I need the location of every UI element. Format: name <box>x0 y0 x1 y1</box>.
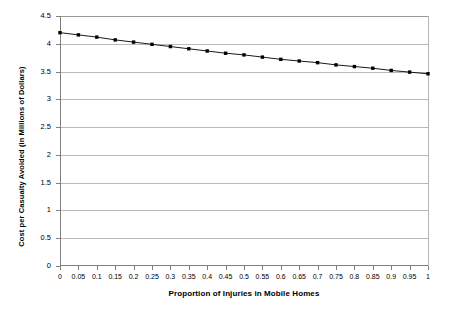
plot-right-frame <box>428 16 429 266</box>
y-tick-mark <box>56 16 60 17</box>
y-tick-label: 4 <box>47 40 51 48</box>
x-tick-label: 0.65 <box>292 272 306 281</box>
x-tick-mark <box>262 266 263 270</box>
x-tick-mark <box>115 266 116 270</box>
x-tick-label: 0.6 <box>276 272 286 281</box>
x-tick-label: 0.85 <box>366 272 380 281</box>
gridline-horizontal <box>61 210 428 211</box>
y-tick-label: 2 <box>47 151 51 159</box>
line-chart: Cost per Casualty Avoided (in Millions o… <box>0 0 453 313</box>
y-axis-tick-labels: 00.511.522.533.544.5 <box>0 0 56 313</box>
gridline-horizontal <box>61 155 428 156</box>
x-axis-title: Proportion of Injuries in Mobile Homes <box>60 289 428 298</box>
y-tick-label: 1 <box>47 206 51 214</box>
x-tick-mark <box>78 266 79 270</box>
x-tick-label: 0.55 <box>256 272 270 281</box>
x-tick-mark <box>391 266 392 270</box>
x-tick-label: 0.45 <box>219 272 233 281</box>
x-tick-mark <box>373 266 374 270</box>
x-tick-mark <box>428 266 429 270</box>
gridline-horizontal <box>61 238 428 239</box>
y-tick-label: 0 <box>47 262 51 270</box>
x-tick-label: 0.7 <box>313 272 323 281</box>
x-tick-label: 0 <box>58 272 62 281</box>
x-tick-label: 1 <box>426 272 430 281</box>
y-tick-mark <box>56 99 60 100</box>
x-tick-label: 0.05 <box>72 272 86 281</box>
x-tick-mark <box>336 266 337 270</box>
x-tick-label: 0.35 <box>182 272 196 281</box>
x-tick-label: 0.8 <box>350 272 360 281</box>
x-tick-label: 0.95 <box>403 272 417 281</box>
gridline-horizontal <box>61 44 428 45</box>
x-tick-label: 0.15 <box>108 272 122 281</box>
y-tick-label: 4.5 <box>41 12 51 20</box>
y-tick-mark <box>56 238 60 239</box>
y-tick-label: 1.5 <box>41 179 51 187</box>
x-tick-mark <box>299 266 300 270</box>
x-tick-mark <box>152 266 153 270</box>
gridline-horizontal <box>61 99 428 100</box>
x-tick-mark <box>134 266 135 270</box>
y-tick-mark <box>56 72 60 73</box>
x-tick-mark <box>207 266 208 270</box>
y-tick-label: 3.5 <box>41 68 51 76</box>
y-tick-label: 3 <box>47 95 51 103</box>
x-tick-label: 0.3 <box>166 272 176 281</box>
x-tick-label: 0.9 <box>386 272 396 281</box>
x-tick-label: 0.5 <box>239 272 249 281</box>
y-tick-label: 2.5 <box>41 123 51 131</box>
x-tick-mark <box>354 266 355 270</box>
x-tick-mark <box>318 266 319 270</box>
y-tick-mark <box>56 210 60 211</box>
y-tick-mark <box>56 183 60 184</box>
x-tick-mark <box>170 266 171 270</box>
gridline-horizontal <box>61 127 428 128</box>
x-tick-label: 0.75 <box>329 272 343 281</box>
y-tick-label: 0.5 <box>41 234 51 242</box>
x-tick-label: 0.25 <box>145 272 159 281</box>
x-tick-label: 0.4 <box>202 272 212 281</box>
x-tick-label: 0.1 <box>92 272 102 281</box>
x-tick-mark <box>244 266 245 270</box>
x-tick-mark <box>60 266 61 270</box>
y-tick-mark <box>56 127 60 128</box>
x-tick-label: 0.2 <box>129 272 139 281</box>
y-tick-mark <box>56 266 60 267</box>
x-tick-mark <box>410 266 411 270</box>
gridline-horizontal <box>61 183 428 184</box>
plot-area <box>60 16 428 266</box>
gridline-horizontal <box>61 16 428 17</box>
gridline-horizontal <box>61 72 428 73</box>
y-tick-mark <box>56 155 60 156</box>
x-tick-mark <box>226 266 227 270</box>
x-tick-mark <box>97 266 98 270</box>
x-tick-mark <box>281 266 282 270</box>
x-tick-mark <box>189 266 190 270</box>
y-tick-mark <box>56 44 60 45</box>
